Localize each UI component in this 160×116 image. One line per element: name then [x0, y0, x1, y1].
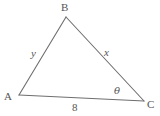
triangle-side-ab — [19, 17, 66, 95]
triangle-side-bc — [66, 17, 144, 101]
angle-label-theta: θ — [114, 86, 120, 96]
vertex-label-a: A — [4, 91, 12, 102]
vertex-label-c: C — [147, 99, 155, 110]
side-label-x: x — [104, 47, 109, 58]
triangle-side-ac — [19, 95, 144, 101]
side-label-y: y — [31, 48, 36, 59]
triangle-shape — [0, 0, 160, 116]
side-label-base-length: 8 — [72, 102, 78, 113]
triangle-diagram: B A C y x θ 8 — [0, 0, 160, 116]
vertex-label-b: B — [61, 2, 69, 13]
